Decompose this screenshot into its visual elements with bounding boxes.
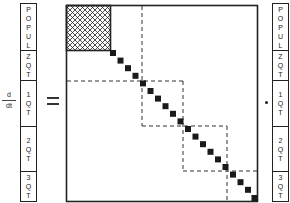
char: T [278,191,282,200]
vector-segment-zqt: Z Q T [273,51,288,81]
right-state-vector: P O P U L Z Q T 1 Q T 2 Q T 3 Q T [272,3,289,202]
char: O [278,14,283,23]
transition-matrix [0,0,290,203]
char: T [278,70,282,79]
char: Q [278,99,283,108]
segment-label: P O P U L [278,5,283,50]
hatched-popul-block [67,6,111,51]
segment-label: 3 Q T [278,173,283,200]
multiply-dot [265,101,268,104]
char: P [278,5,283,14]
char: Q [278,61,283,70]
vector-segment-1qt: 1 Q T [273,81,288,127]
char: 2 [279,136,283,145]
vector-segment-popul: P O P U L [273,4,288,51]
vector-segment-3qt: 3 Q T [273,172,288,201]
char: U [278,32,283,41]
char: P [278,23,283,32]
char: Q [278,145,283,154]
char: 1 [279,90,283,99]
char: T [278,154,282,163]
char: Z [278,52,282,61]
segment-label: 1 Q T [278,90,283,117]
segment-label: 2 Q T [278,136,283,163]
char: Q [278,182,283,191]
char: 3 [279,173,283,182]
char: T [278,108,282,117]
char: L [279,41,283,50]
segment-label: Z Q T [278,52,283,79]
vector-segment-2qt: 2 Q T [273,127,288,172]
